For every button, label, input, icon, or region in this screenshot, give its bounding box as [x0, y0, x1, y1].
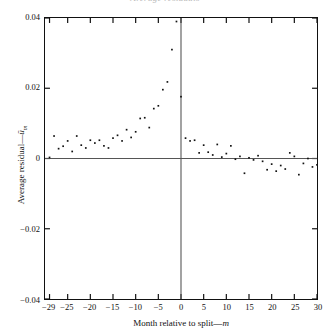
data-point	[194, 139, 196, 141]
data-point-group	[49, 21, 318, 176]
x-axis-symbol: m	[222, 318, 229, 328]
data-point	[176, 21, 178, 23]
chart-figure: Average residuals −0.04−0.0200.020.04 −2…	[0, 0, 330, 335]
data-point	[235, 158, 237, 160]
data-point	[189, 140, 191, 142]
x-tick-label: 15	[245, 303, 254, 312]
x-tick-label: 0	[179, 303, 183, 312]
y-axis-label: Average residual—ūm	[16, 85, 30, 245]
chart-title: Average residuals	[0, 0, 330, 3]
y-axis-subscript: m	[21, 126, 28, 131]
x-tick-label: 20	[268, 303, 277, 312]
data-point	[112, 137, 114, 139]
x-axis-label: Month relative to split—m	[44, 318, 318, 328]
x-tick-label: −15	[106, 303, 119, 312]
data-point	[221, 156, 223, 158]
data-point	[303, 163, 305, 165]
data-point	[307, 158, 309, 160]
data-point	[316, 164, 318, 166]
data-point	[89, 139, 91, 141]
x-tick-label: −29	[42, 303, 55, 312]
data-point	[62, 145, 64, 147]
data-point	[262, 160, 264, 162]
x-tick-label: −20	[83, 303, 96, 312]
data-point	[266, 169, 268, 171]
data-point	[280, 165, 282, 167]
data-point	[312, 166, 314, 168]
data-point	[185, 137, 187, 139]
data-point	[162, 89, 164, 91]
data-point	[203, 144, 205, 146]
data-point	[94, 142, 96, 144]
x-tick-label: −25	[60, 303, 73, 312]
data-point	[257, 155, 259, 157]
data-point	[139, 118, 141, 120]
data-point	[180, 96, 182, 98]
data-point	[253, 159, 255, 161]
data-point	[198, 152, 200, 154]
data-point	[71, 151, 73, 153]
data-point	[225, 153, 227, 155]
x-tick-label: −10	[129, 303, 142, 312]
data-point	[58, 148, 60, 150]
data-point	[80, 144, 82, 146]
data-point	[144, 117, 146, 119]
data-point	[130, 137, 132, 139]
data-point	[293, 156, 295, 158]
data-point	[108, 147, 110, 149]
data-point	[171, 49, 173, 51]
data-point	[121, 140, 123, 142]
data-point	[298, 174, 300, 176]
data-point	[239, 156, 241, 158]
data-point	[148, 127, 150, 129]
data-point	[76, 135, 78, 137]
y-axis-symbol: ū	[16, 130, 26, 135]
plot-area	[44, 17, 318, 300]
data-point	[207, 151, 209, 153]
x-tick-label: 10	[222, 303, 231, 312]
data-point	[135, 131, 137, 133]
x-tick-label: −5	[154, 303, 163, 312]
data-point	[167, 81, 169, 83]
data-point	[271, 163, 273, 165]
x-tick-label: 25	[291, 303, 300, 312]
data-point	[157, 105, 159, 107]
scatter-plot-canvas	[45, 18, 317, 299]
data-point	[126, 129, 128, 131]
data-point	[216, 144, 218, 146]
data-point	[99, 139, 101, 141]
data-point	[230, 145, 232, 147]
y-tick-label: 0.04	[0, 13, 40, 22]
x-tick-label: 5	[202, 303, 206, 312]
data-point	[117, 134, 119, 136]
data-point	[153, 108, 155, 110]
x-tick-label: 30	[314, 303, 323, 312]
data-point	[284, 168, 286, 170]
data-point	[67, 140, 69, 142]
data-point	[289, 152, 291, 154]
data-point	[244, 172, 246, 174]
data-point	[53, 135, 55, 137]
data-point	[49, 157, 51, 159]
data-point	[103, 145, 105, 147]
data-point	[248, 157, 250, 159]
data-point	[212, 154, 214, 156]
y-tick-label: −0.04	[0, 296, 40, 305]
data-point	[275, 170, 277, 172]
data-point	[85, 147, 87, 149]
